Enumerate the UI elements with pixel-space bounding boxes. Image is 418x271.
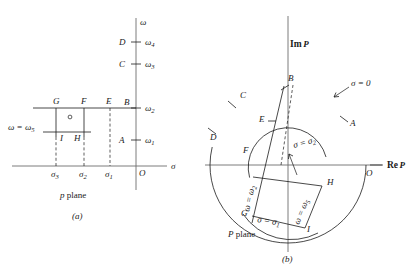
panel-b-plane-label: P plane: [227, 229, 255, 239]
panel-a-point-E: E: [105, 96, 112, 106]
panel-b-point-H: H: [326, 177, 334, 187]
panel-b-tick-A: [340, 116, 348, 122]
panel-a-value-sigma2: σ2: [79, 169, 87, 180]
panel-b-point-C: C: [240, 90, 247, 100]
panel-b-label-sigma0: σ = 0: [351, 78, 371, 88]
panel-b-reP-axis-label: ReP: [387, 160, 406, 170]
panel-a-value-omega3: ω3: [145, 59, 155, 70]
panel-a-sigma-axis-label: σ: [171, 161, 176, 171]
panel-a-omega-axis-label: ω: [140, 17, 146, 27]
panel-a-omega5-label: ω = ω5: [8, 122, 35, 133]
panel-b-point-E: E: [258, 114, 265, 124]
panel-b-point-B: B: [288, 73, 294, 83]
panel-b-arc-sigma0-tail: [210, 147, 212, 165]
panel-b-group: ImP ReP O A B C D: [205, 16, 406, 264]
panel-a-point-C: C: [119, 59, 126, 69]
panel-a-point-A: A: [118, 135, 125, 145]
panel-b-leader-sigma2: [289, 154, 297, 175]
panel-b-label-sigma1: σ = σ1: [257, 214, 281, 228]
panel-a-point-D: D: [118, 37, 126, 47]
panel-b-point-I: I: [306, 224, 311, 234]
panel-a-point-I: I: [59, 133, 64, 143]
panel-b-leader-sigma0: [334, 87, 349, 97]
panel-b-origin-label: O: [366, 168, 373, 178]
panel-a-value-omega1: ω1: [145, 135, 155, 146]
panel-b-dash-to-B: [281, 85, 293, 165]
panel-a-plane-label: p plane: [59, 190, 86, 200]
panel-a-point-G: G: [53, 96, 60, 106]
panel-b-point-D: D: [209, 132, 217, 142]
figure-container: σ ω O ω1 ω2 ω3 ω4 A C D B: [0, 0, 418, 271]
panel-b-point-F: F: [242, 145, 249, 155]
panel-a-point-B: B: [124, 97, 130, 107]
panel-b-point-A: A: [349, 118, 356, 128]
panel-a-origin-label: O: [139, 168, 146, 178]
panel-a-value-omega4: ω4: [145, 37, 155, 48]
panel-a-caption: (a): [72, 211, 83, 221]
panel-a-point-F: F: [80, 96, 87, 106]
panel-a-point-H: H: [73, 133, 81, 143]
panel-b-caption: (b): [282, 254, 293, 264]
panel-b-seg-F-H: [253, 177, 322, 186]
panel-b-ray-omega2: [252, 86, 284, 223]
panel-b-tick-C: [228, 101, 236, 108]
panel-b-label-omega5: ω = ω5: [292, 197, 312, 226]
panel-a-group: σ ω O ω1 ω2 ω3 ω4 A C D B: [8, 17, 176, 221]
figure-svg: σ ω O ω1 ω2 ω3 ω4 A C D B: [0, 0, 418, 271]
panel-a-value-omega2: ω2: [145, 103, 155, 114]
panel-b-imP-axis-label: ImP: [290, 39, 309, 49]
panel-a-point-marker: [68, 115, 72, 119]
panel-a-value-sigma3: σ3: [51, 169, 59, 180]
panel-a-value-sigma1: σ1: [105, 169, 113, 180]
panel-b-arc-sigma2: [248, 128, 326, 178]
